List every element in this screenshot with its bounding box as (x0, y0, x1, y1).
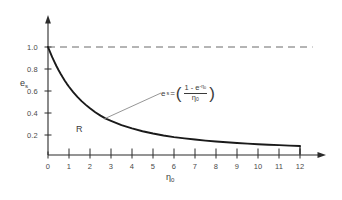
chart-figure: 1.0 0.8 0.6 0.4 0.2 0 1 2 3 4 5 6 7 8 9 … (0, 0, 342, 200)
equation-numerator-base: 1 - e (185, 83, 200, 92)
x-tick-label-3: 3 (109, 162, 113, 171)
equation-close-paren: ) (209, 85, 215, 102)
x-tick-label-11: 11 (275, 162, 283, 171)
x-tick-label-0: 0 (46, 162, 50, 171)
x-tick-label-9: 9 (235, 162, 239, 171)
equation-lhs: e (161, 89, 165, 98)
region-label-r: R (76, 124, 83, 134)
y-axis-title-subscript: s (25, 82, 28, 89)
x-tick-label-10: 10 (254, 162, 263, 171)
y-tick-label-0_2: 0.2 (16, 131, 38, 140)
equation-open-paren: ( (176, 85, 182, 102)
y-tick-label-1_0: 1.0 (16, 43, 38, 52)
equation-leader-line (104, 93, 161, 119)
y-tick-label-0_8: 0.8 (16, 65, 38, 74)
x-axis-title-subscript: 0 (171, 176, 174, 183)
equation-numerator-exponent-subscript: 0 (204, 86, 206, 90)
x-axis-ticks (48, 149, 300, 159)
x-axis-title: η0 (166, 172, 174, 183)
equation-annotation: es = ( 1 - e-η0 η0 ) (161, 84, 215, 103)
equation-fraction: 1 - e-η0 η0 (183, 84, 209, 103)
y-axis (45, 15, 51, 155)
x-tick-label-6: 6 (172, 162, 176, 171)
x-tick-label-8: 8 (214, 162, 218, 171)
equation-denominator-subscript: 0 (196, 96, 199, 102)
equation-equals: = (170, 89, 175, 98)
x-tick-label-5: 5 (151, 162, 155, 171)
equation-numerator: 1 - e-η0 (184, 84, 208, 92)
equation-lhs-subscript: s (166, 90, 169, 96)
x-tick-label-1: 1 (67, 162, 71, 171)
y-tick-label-0_4: 0.4 (16, 109, 38, 118)
x-tick-label-7: 7 (193, 162, 197, 171)
y-axis-title: es (20, 78, 28, 89)
x-tick-label-2: 2 (88, 162, 92, 171)
x-tick-label-12: 12 (296, 162, 305, 171)
equation-denominator: η0 (191, 94, 200, 103)
x-tick-label-4: 4 (130, 162, 134, 171)
